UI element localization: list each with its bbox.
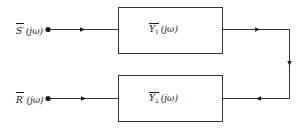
- arrow-right-icon: [255, 27, 260, 31]
- symbol-y1: Y1: [149, 24, 159, 37]
- arrow-down-icon: [287, 61, 291, 66]
- argument-jw: (jω): [161, 24, 178, 34]
- arrow-left-icon: [256, 96, 261, 100]
- terminal-dot-s: [45, 27, 50, 32]
- arrow-right-icon: [81, 96, 86, 100]
- symbol-y2: Y2: [149, 93, 159, 106]
- argument-jw: (jω): [26, 95, 43, 105]
- block-y1-label: Y1(jω): [149, 24, 178, 37]
- block-diagram: [0, 0, 304, 128]
- symbol-r: R': [16, 93, 24, 105]
- input-r-label: R'(jω): [16, 93, 44, 105]
- input-s-label: S'(jω): [16, 24, 43, 36]
- block-y2-label: Y2(jω): [149, 93, 178, 106]
- feedback-connector: [223, 30, 290, 99]
- arrow-right-icon: [80, 27, 85, 31]
- argument-jw: (jω): [26, 26, 43, 36]
- argument-jw: (jω): [161, 93, 178, 103]
- symbol-s: S': [16, 24, 24, 36]
- terminal-dot-r: [45, 96, 50, 101]
